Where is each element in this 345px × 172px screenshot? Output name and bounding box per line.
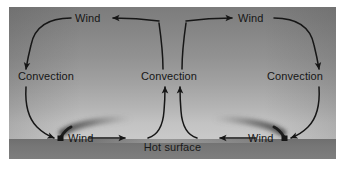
line-right-cell-top-riser: [182, 23, 186, 69]
label-convection-center: Convection: [140, 70, 198, 82]
convection-diagram: Wind Wind Convection Convection Convecti…: [0, 0, 345, 172]
arrow-left-lower-descent: [26, 87, 54, 138]
arrow-right-updraft: [180, 87, 197, 138]
label-convection-right: Convection: [266, 70, 324, 82]
line-left-cell-top-riser: [159, 23, 163, 69]
label-convection-left: Convection: [17, 70, 75, 82]
arrow-left-top-inflow: [113, 18, 159, 21]
arrow-right-top-inflow: [186, 18, 232, 21]
arrow-right-lower-descent: [291, 87, 319, 138]
diagram-plate: Wind Wind Convection Convection Convecti…: [9, 7, 336, 159]
label-wind-top-left: Wind: [74, 12, 101, 24]
label-wind-top-right: Wind: [237, 12, 264, 24]
arrow-right-upper-descent: [274, 18, 319, 69]
arrow-left-updraft: [148, 87, 165, 138]
flow-arrows: [9, 7, 336, 159]
arrow-left-upper-descent: [26, 18, 71, 69]
label-hot-surface: Hot surface: [9, 141, 336, 154]
